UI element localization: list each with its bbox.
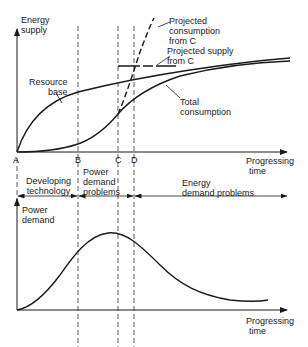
point-A: A bbox=[13, 155, 19, 165]
top-x-axis-label: Progressing time bbox=[246, 156, 294, 176]
power-demand-curve bbox=[17, 233, 268, 310]
phase-energy-demand-problems: Energy demand problems bbox=[182, 178, 254, 198]
point-C: C bbox=[115, 155, 122, 165]
projected-consumption-label: Projected consumption from C bbox=[169, 16, 220, 46]
resource-base-label: Resource base bbox=[28, 77, 68, 97]
point-D: D bbox=[131, 155, 138, 165]
point-B: B bbox=[75, 155, 81, 165]
phase-developing-technology: Developing technology bbox=[26, 176, 71, 196]
bottom-y-axis-label: Power demand bbox=[22, 205, 55, 225]
top-y-axis-label: Energy supply bbox=[21, 15, 50, 35]
total-consumption-curve bbox=[17, 61, 290, 152]
projected-supply-label: Projected supply from C bbox=[167, 46, 234, 66]
resource-base-curve bbox=[17, 58, 290, 152]
phase-power-demand-problems: Power demand problems bbox=[83, 167, 120, 197]
figure-caption bbox=[0, 340, 308, 347]
total-consumption-label: Total consumption bbox=[180, 97, 231, 117]
bottom-x-axis-label: Progressing time bbox=[246, 316, 294, 336]
